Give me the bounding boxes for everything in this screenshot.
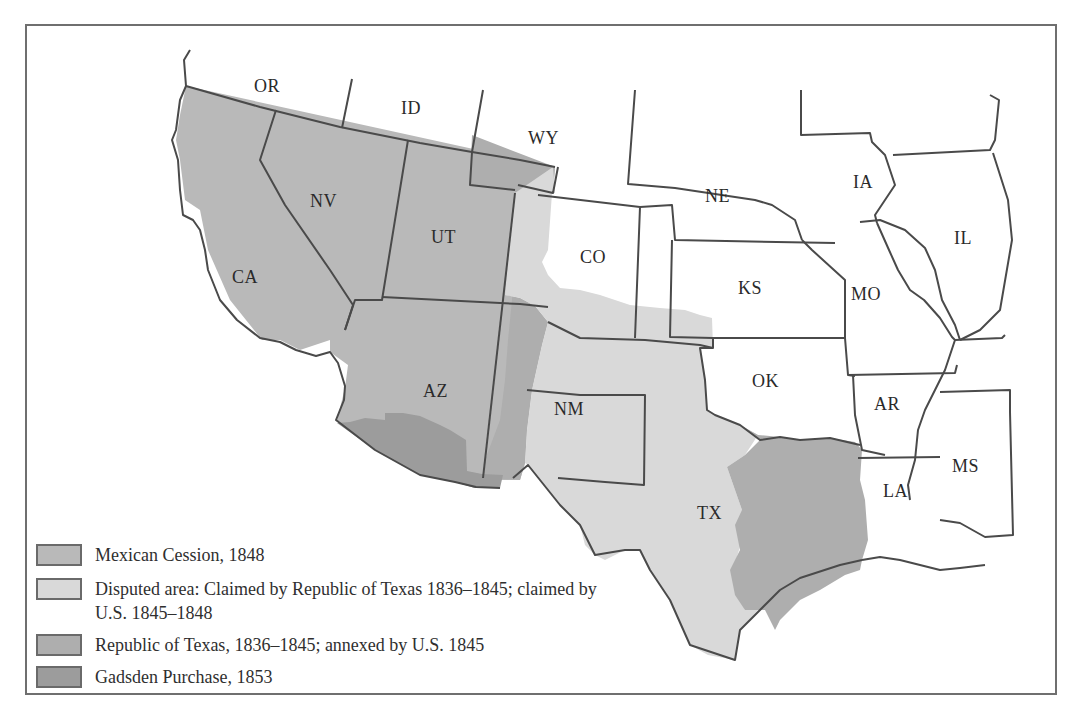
legend-item-disputed-area: Disputed area: Claimed by Republic of Te… xyxy=(36,578,615,625)
state-label-or: OR xyxy=(254,76,280,96)
state-label-co: CO xyxy=(580,247,606,267)
state-label-id: ID xyxy=(401,98,421,118)
state-label-ut: UT xyxy=(431,227,456,247)
state-label-wy: WY xyxy=(528,128,559,148)
state-label-nv: NV xyxy=(310,191,337,211)
state-label-ok: OK xyxy=(752,371,779,391)
state-label-il: IL xyxy=(954,228,972,248)
legend-swatch xyxy=(36,578,82,600)
legend-swatch xyxy=(36,544,82,566)
state-label-ia: IA xyxy=(853,172,873,192)
legend-label: Gadsden Purchase, 1853 xyxy=(95,665,615,689)
state-label-la: LA xyxy=(883,481,908,501)
state-label-nm: NM xyxy=(554,399,584,419)
legend-swatch xyxy=(36,666,82,688)
state-label-mo: MO xyxy=(851,284,881,304)
legend-item-republic-of-texas: Republic of Texas, 1836–1845; annexed by… xyxy=(36,634,615,657)
state-label-ne: NE xyxy=(705,186,730,206)
state-label-ks: KS xyxy=(738,278,762,298)
legend-swatch xyxy=(36,634,82,656)
legend-item-mexican-cession: Mexican Cession, 1848 xyxy=(36,544,615,567)
legend-label: Republic of Texas, 1836–1845; annexed by… xyxy=(95,633,615,657)
legend-item-gadsden-purchase: Gadsden Purchase, 1853 xyxy=(36,666,615,689)
state-label-tx: TX xyxy=(697,503,722,523)
legend-label: Disputed area: Claimed by Republic of Te… xyxy=(95,577,615,625)
state-label-ms: MS xyxy=(952,456,979,476)
legend-label: Mexican Cession, 1848 xyxy=(95,543,615,567)
state-label-az: AZ xyxy=(423,381,448,401)
state-label-ar: AR xyxy=(874,394,900,414)
region-republic-texas xyxy=(727,425,868,630)
state-label-ca: CA xyxy=(232,267,258,287)
